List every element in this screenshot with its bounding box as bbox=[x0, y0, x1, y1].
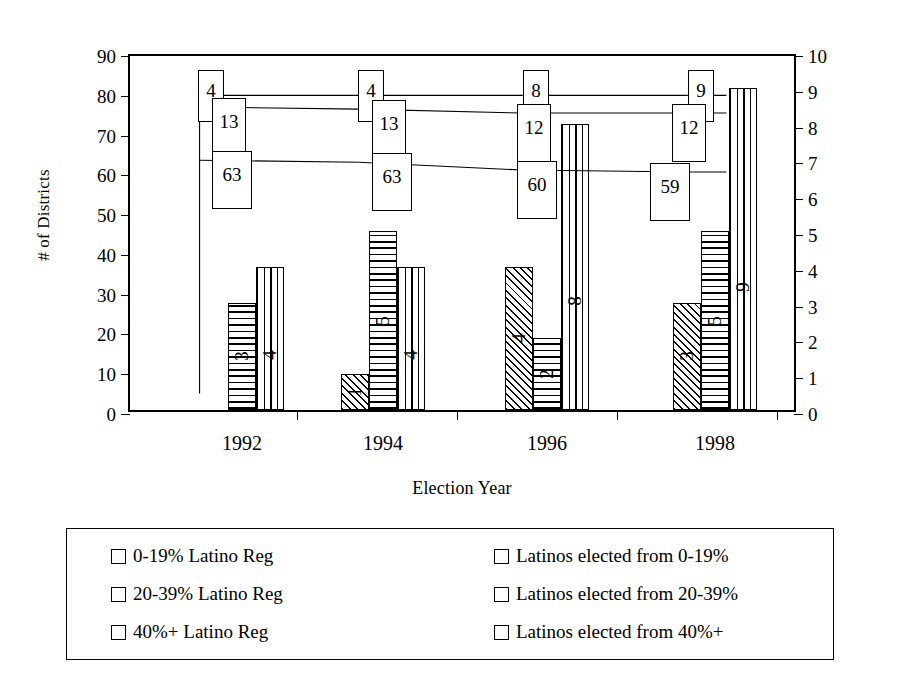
data-point-label: 60 bbox=[517, 161, 557, 219]
legend-swatch-icon bbox=[111, 625, 126, 640]
x-axis-title: Election Year bbox=[128, 478, 796, 499]
legend-item-label: Latinos elected from 40%+ bbox=[516, 621, 724, 643]
legend-swatch-icon bbox=[494, 625, 509, 640]
y-axis-right-tick bbox=[794, 342, 803, 343]
x-axis-tick-label: 1998 bbox=[655, 432, 775, 455]
y-axis-right-tick-label: 1 bbox=[808, 369, 848, 388]
plot-area: 0102030405060708090 012345678910 1992199… bbox=[128, 54, 796, 412]
legend-item[interactable]: 40%+ Latino Reg bbox=[67, 613, 450, 651]
y-axis-right-tick bbox=[794, 163, 803, 164]
legend-item[interactable]: Latinos elected from 40%+ bbox=[450, 613, 833, 651]
legend-item-label: 20-39% Latino Reg bbox=[133, 583, 283, 605]
y-axis-left-tick bbox=[121, 136, 130, 137]
y-axis-right-tick-label: 5 bbox=[808, 226, 848, 245]
legend-item-label: 0-19% Latino Reg bbox=[133, 545, 273, 567]
y-axis-right-tick bbox=[794, 235, 803, 236]
legend-item[interactable]: Latinos elected from 20-39% bbox=[450, 575, 833, 613]
x-axis-tick bbox=[457, 410, 458, 420]
chart-figure: # of Districts # of Latino Elected Offic… bbox=[0, 0, 899, 690]
legend-swatch-icon bbox=[494, 549, 509, 564]
y-axis-left-tick-label: 90 bbox=[76, 47, 116, 66]
y-axis-left-tick bbox=[121, 374, 130, 375]
y-axis-right-tick-label: 0 bbox=[808, 405, 848, 424]
y-axis-right-tick-label: 8 bbox=[808, 118, 848, 137]
data-point-label: 13 bbox=[212, 98, 246, 156]
x-axis-tick bbox=[297, 410, 298, 420]
x-axis-tick bbox=[777, 410, 778, 420]
y-axis-left-tick-label: 80 bbox=[76, 86, 116, 105]
y-axis-left-tick bbox=[121, 215, 130, 216]
y-axis-left-tick bbox=[121, 334, 130, 335]
data-point-label: 63 bbox=[212, 151, 252, 209]
y-axis-right-tick bbox=[794, 271, 803, 272]
y-axis-right-tick-label: 9 bbox=[808, 82, 848, 101]
y-axis-right-tick-label: 4 bbox=[808, 261, 848, 280]
y-axis-right-tick bbox=[794, 56, 803, 57]
y-axis-left-tick-label: 60 bbox=[76, 166, 116, 185]
y-axis-left-tick-label: 30 bbox=[76, 285, 116, 304]
data-point-label: 59 bbox=[650, 163, 690, 221]
y-axis-right-tick-label: 3 bbox=[808, 297, 848, 316]
y-axis-left-tick-label: 10 bbox=[76, 365, 116, 384]
y-axis-left-tick bbox=[121, 96, 130, 97]
y-axis-left-title: # of Districts bbox=[34, 125, 54, 305]
legend-item-label: Latinos elected from 0-19% bbox=[516, 545, 729, 567]
x-axis-tick-label: 1994 bbox=[323, 432, 443, 455]
y-axis-right-tick bbox=[794, 199, 803, 200]
y-axis-right-tick-label: 7 bbox=[808, 154, 848, 173]
y-axis-right-tick-label: 6 bbox=[808, 190, 848, 209]
data-point-label: 12 bbox=[517, 104, 551, 162]
legend-swatch-icon bbox=[111, 587, 126, 602]
y-axis-left-tick-label: 20 bbox=[76, 325, 116, 344]
y-axis-left-tick-label: 50 bbox=[76, 206, 116, 225]
data-point-label: 63 bbox=[372, 153, 412, 211]
y-axis-left-tick-label: 70 bbox=[76, 126, 116, 145]
y-axis-left-tick bbox=[121, 295, 130, 296]
y-axis-left-tick bbox=[121, 56, 130, 57]
data-point-label: 13 bbox=[372, 100, 406, 158]
x-axis-tick bbox=[617, 410, 618, 420]
chart-legend: 0-19% Latino RegLatinos elected from 0-1… bbox=[66, 528, 834, 660]
y-axis-left-tick-label: 40 bbox=[76, 245, 116, 264]
data-point-label: 12 bbox=[672, 104, 706, 162]
legend-item-label: Latinos elected from 20-39% bbox=[516, 583, 738, 605]
y-axis-right-tick bbox=[794, 128, 803, 129]
x-axis-tick-label: 1996 bbox=[487, 432, 607, 455]
y-axis-left-tick bbox=[121, 175, 130, 176]
legend-item[interactable]: 20-39% Latino Reg bbox=[67, 575, 450, 613]
x-axis-tick-label: 1992 bbox=[182, 432, 302, 455]
legend-swatch-icon bbox=[494, 587, 509, 602]
legend-item-label: 40%+ Latino Reg bbox=[133, 621, 268, 643]
y-axis-right-tick bbox=[794, 378, 803, 379]
y-axis-right-tick-label: 10 bbox=[808, 47, 848, 66]
y-axis-right-tick-label: 2 bbox=[808, 333, 848, 352]
legend-swatch-icon bbox=[111, 549, 126, 564]
y-axis-right-tick bbox=[794, 414, 803, 415]
legend-item[interactable]: 0-19% Latino Reg bbox=[67, 537, 450, 575]
y-axis-left-tick bbox=[121, 414, 130, 415]
y-axis-right-tick bbox=[794, 92, 803, 93]
y-axis-left-tick-label: 0 bbox=[76, 405, 116, 424]
y-axis-right-tick bbox=[794, 307, 803, 308]
y-axis-left-tick bbox=[121, 255, 130, 256]
legend-item[interactable]: Latinos elected from 0-19% bbox=[450, 537, 833, 575]
